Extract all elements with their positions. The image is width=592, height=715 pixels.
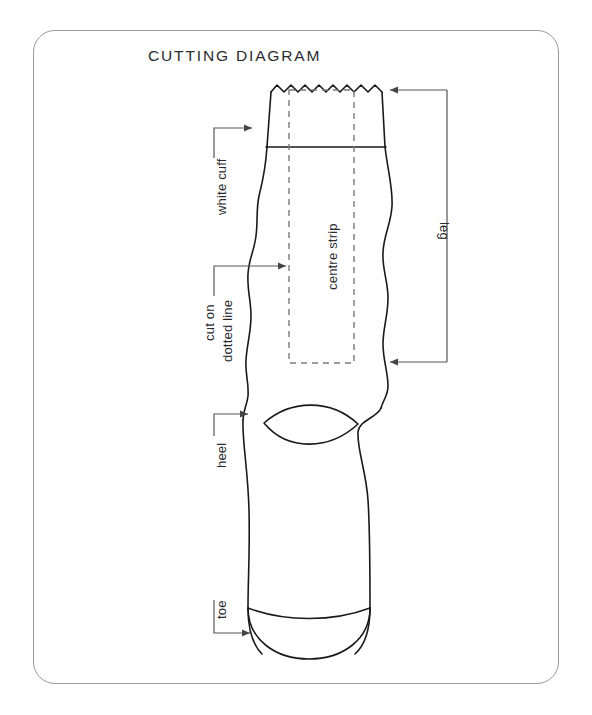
foot-left-edge	[243, 420, 262, 654]
cut-on-dotted-line-leader	[214, 266, 286, 296]
white-cuff-leader	[214, 128, 252, 158]
toe-rounded-end	[248, 608, 370, 659]
label-centre-strip: centre strip	[325, 223, 340, 290]
label-heel: heel	[214, 443, 229, 468]
label-toe: toe	[214, 600, 229, 619]
toe-seam-line	[248, 608, 370, 619]
cuff-right-edge	[382, 92, 385, 147]
page-root: CUTTING DIAGRAM	[0, 0, 592, 715]
label-white-cuff: white cuff	[214, 158, 229, 215]
foot-right-edge	[355, 408, 381, 654]
centre-strip-dashed-rect	[289, 90, 354, 363]
leg-right-edge	[381, 147, 392, 408]
sock-outline-group	[243, 85, 392, 659]
label-dotted-line: dotted line	[220, 300, 235, 362]
heel-lens-shape	[264, 405, 358, 444]
cuff-left-edge	[267, 92, 271, 147]
label-leg: leg	[437, 222, 452, 240]
cutting-diagram-svg	[0, 0, 592, 715]
leg-left-edge	[243, 147, 267, 420]
label-cut-on: cut on	[202, 304, 217, 341]
zigzag-top-edge	[271, 85, 382, 92]
